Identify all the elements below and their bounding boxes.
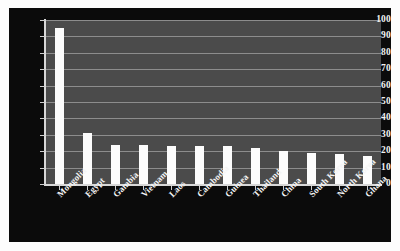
- bar: [111, 145, 120, 184]
- gridline: [45, 86, 381, 87]
- chart-panel: 0102030405060708090100 MongoliaEgyptGamb…: [9, 8, 391, 242]
- y-tick-label: 40: [361, 113, 391, 123]
- y-tick-mark: [40, 151, 45, 152]
- gridline: [45, 102, 381, 103]
- y-tick-mark: [40, 86, 45, 87]
- y-tick-label: 50: [361, 97, 391, 107]
- y-tick-mark: [40, 168, 45, 169]
- y-tick-label: 20: [361, 146, 391, 156]
- y-tick-label: 90: [361, 31, 391, 41]
- y-tick-label: 70: [361, 64, 391, 74]
- y-tick-mark: [40, 184, 45, 185]
- gridline: [45, 135, 381, 136]
- y-tick-mark: [40, 102, 45, 103]
- bar: [55, 28, 64, 184]
- gridline: [45, 118, 381, 119]
- y-tick-label: 80: [361, 48, 391, 58]
- y-tick-mark: [40, 36, 45, 37]
- bar: [307, 153, 316, 184]
- gridline: [45, 53, 381, 54]
- gridline: [45, 69, 381, 70]
- bar: [167, 146, 176, 184]
- y-tick-mark: [40, 69, 45, 70]
- bar: [251, 148, 260, 184]
- gridline: [45, 20, 381, 21]
- y-tick-mark: [40, 53, 45, 54]
- y-tick-mark: [40, 20, 45, 21]
- y-tick-label: 60: [361, 81, 391, 91]
- gridline: [45, 151, 381, 152]
- y-tick-mark: [40, 135, 45, 136]
- y-tick-label: 100: [361, 15, 391, 25]
- y-tick-label: 30: [361, 130, 391, 140]
- y-tick-mark: [40, 118, 45, 119]
- bar: [279, 151, 288, 184]
- chart-screenshot: 0102030405060708090100 MongoliaEgyptGamb…: [0, 0, 400, 251]
- bar: [195, 146, 204, 184]
- bar: [139, 145, 148, 184]
- plot-area: [45, 20, 381, 184]
- gridline: [45, 36, 381, 37]
